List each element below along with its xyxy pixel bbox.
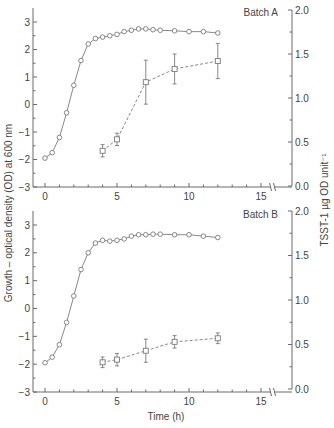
y-tick-label: 1 (24, 275, 30, 286)
circle-marker-icon (151, 232, 156, 237)
square-marker-icon (172, 66, 177, 71)
y-tick-label: 0 (24, 99, 30, 110)
circle-marker-icon (216, 235, 221, 240)
square-marker-icon (172, 339, 177, 344)
chart-canvas: −3−2−101230510150.00.51.01.52.0Batch A −… (0, 0, 334, 428)
circle-marker-icon (158, 28, 163, 33)
circle-marker-icon (57, 135, 62, 140)
circle-marker-icon (115, 238, 120, 243)
x-tick-label: 5 (114, 191, 120, 202)
circle-marker-icon (64, 320, 69, 325)
circle-marker-icon (129, 28, 134, 33)
x-tick-label: 10 (183, 396, 195, 407)
x-tick-label: 15 (255, 396, 267, 407)
x-tick-label: 0 (42, 396, 48, 407)
y-right-tick-label: 1.5 (295, 250, 309, 261)
circle-marker-icon (216, 31, 221, 36)
square-marker-icon (115, 357, 120, 362)
y-tick-label: 3 (24, 17, 30, 28)
square-marker-icon (215, 336, 220, 341)
circle-marker-icon (100, 238, 105, 243)
y-right-tick-label: 0.5 (295, 137, 309, 148)
x-tick-label: 10 (183, 191, 195, 202)
y-tick-label: −1 (19, 127, 31, 138)
circle-marker-icon (50, 150, 55, 155)
square-marker-icon (215, 59, 220, 64)
circle-marker-icon (93, 36, 98, 41)
circle-marker-icon (72, 294, 77, 299)
panel-batch-a: −3−2−101230510150.00.51.01.52.0Batch A (19, 5, 310, 203)
y-tick-label: −1 (19, 331, 31, 342)
circle-marker-icon (201, 234, 206, 239)
circle-marker-icon (79, 267, 84, 272)
panel-title: Batch B (243, 209, 278, 220)
y-tick-label: −2 (19, 359, 31, 370)
x-tick-label: 5 (114, 396, 120, 407)
y-right-tick-label: 0.0 (295, 384, 309, 395)
circle-marker-icon (115, 32, 120, 37)
y-axis-left-title: Growth – optical density (OD) at 600 nm (3, 124, 14, 302)
y-right-tick-label: 0.5 (295, 339, 309, 350)
y-tick-label: −3 (19, 387, 31, 398)
y-tick-label: −3 (19, 182, 31, 193)
x-axis-title: Time (h) (148, 411, 185, 422)
circle-marker-icon (86, 251, 91, 256)
circle-marker-icon (187, 29, 192, 34)
y-tick-label: 1 (24, 72, 30, 83)
square-marker-icon (143, 80, 148, 85)
circle-marker-icon (100, 35, 105, 40)
circle-marker-icon (144, 232, 149, 237)
circle-marker-icon (72, 83, 77, 88)
square-marker-icon (100, 360, 105, 365)
circle-marker-icon (187, 232, 192, 237)
circle-marker-icon (108, 33, 113, 38)
circle-marker-icon (50, 355, 55, 360)
circle-marker-icon (43, 156, 48, 161)
circle-marker-icon (79, 58, 84, 63)
x-tick-label: 0 (42, 191, 48, 202)
panel-batch-b: −3−2−101230510150.00.51.01.52.0Batch B (19, 206, 310, 408)
growth-series-line (45, 29, 218, 158)
square-marker-icon (115, 137, 120, 142)
circle-marker-icon (201, 29, 206, 34)
y-right-tick-label: 1.0 (295, 93, 309, 104)
y-right-tick-label: 0.0 (295, 181, 309, 192)
panel-title: Batch A (244, 7, 279, 18)
y-tick-label: 2 (24, 247, 30, 258)
y-right-tick-label: 1.5 (295, 49, 309, 60)
circle-marker-icon (122, 29, 127, 34)
y-right-tick-label: 2.0 (295, 206, 309, 217)
circle-marker-icon (129, 234, 134, 239)
square-marker-icon (100, 148, 105, 153)
y-right-tick-label: 2.0 (295, 5, 309, 16)
circle-marker-icon (93, 241, 98, 246)
y-tick-label: 0 (24, 303, 30, 314)
x-tick-label: 15 (255, 191, 267, 202)
circle-marker-icon (144, 27, 149, 32)
circle-marker-icon (108, 239, 113, 244)
circle-marker-icon (136, 232, 141, 237)
circle-marker-icon (172, 29, 177, 34)
circle-marker-icon (172, 232, 177, 237)
circle-marker-icon (151, 27, 156, 32)
y-right-tick-label: 1.0 (295, 295, 309, 306)
y-tick-label: 3 (24, 220, 30, 231)
circle-marker-icon (57, 342, 62, 347)
y-tick-label: 2 (24, 44, 30, 55)
square-marker-icon (143, 348, 148, 353)
growth-series-line (45, 234, 218, 363)
circle-marker-icon (43, 360, 48, 365)
circle-marker-icon (122, 237, 127, 242)
y-tick-label: −2 (19, 154, 31, 165)
circle-marker-icon (158, 232, 163, 237)
y-axis-right-title: TSST-1 µg OD unit⁻¹ (319, 153, 330, 247)
circle-marker-icon (64, 110, 69, 115)
chart-figure: −3−2−101230510150.00.51.01.52.0Batch A −… (0, 0, 334, 428)
circle-marker-icon (136, 27, 141, 32)
circle-marker-icon (86, 42, 91, 47)
